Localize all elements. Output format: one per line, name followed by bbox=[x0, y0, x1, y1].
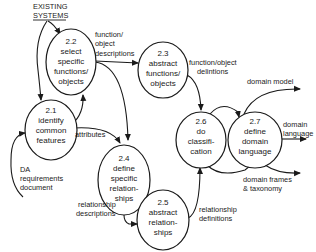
svg-text:relationship: relationship bbox=[78, 200, 116, 209]
svg-text:select: select bbox=[61, 47, 83, 56]
svg-text:ships: ships bbox=[115, 194, 134, 203]
process-2.6: 2.6 do classifi- cation bbox=[176, 112, 226, 168]
process-2.3: 2.3 abstract functions/ objects bbox=[138, 42, 188, 98]
svg-text:do: do bbox=[197, 127, 206, 136]
process-2.1: 2.1 identify common features bbox=[25, 100, 77, 160]
process-2.2: 2.2 select specific functions/ objects bbox=[46, 29, 96, 95]
svg-text:language: language bbox=[283, 129, 313, 138]
svg-text:objects: objects bbox=[150, 79, 175, 88]
label-function-object-definitions: function/object delintions bbox=[189, 58, 237, 76]
svg-text:& taxonomy: & taxonomy bbox=[243, 184, 282, 193]
flow-2.6-to-2.7 bbox=[210, 106, 239, 117]
flow-2.3-to-2.6 bbox=[187, 75, 201, 110]
svg-text:descriptions: descriptions bbox=[95, 49, 135, 58]
svg-text:definitions: definitions bbox=[199, 214, 233, 223]
svg-text:2.6: 2.6 bbox=[195, 117, 207, 126]
svg-text:features: features bbox=[37, 136, 66, 145]
svg-text:domain frames: domain frames bbox=[243, 175, 292, 184]
svg-text:functions/: functions/ bbox=[146, 69, 181, 78]
svg-text:relation-: relation- bbox=[110, 184, 139, 193]
flow-2.7-domain-frames bbox=[265, 165, 300, 173]
process-2.7: 2.7 define domain language bbox=[228, 112, 282, 168]
process-2.5: 2.5 abstract relation- ships bbox=[137, 190, 189, 250]
svg-text:2.5: 2.5 bbox=[157, 198, 169, 207]
svg-text:document: document bbox=[20, 183, 52, 192]
svg-text:abstract: abstract bbox=[149, 208, 178, 217]
svg-text:function/object: function/object bbox=[189, 58, 237, 67]
svg-text:language: language bbox=[239, 147, 272, 156]
svg-text:descriptions: descriptions bbox=[76, 209, 116, 218]
external-source-existing-systems: EXISTING SYSTEMS bbox=[33, 2, 68, 20]
svg-text:2.2: 2.2 bbox=[65, 37, 77, 46]
label-da-requirements: DA requirements document bbox=[20, 165, 63, 192]
svg-text:2.3: 2.3 bbox=[157, 49, 169, 58]
label-domain-model: domain model bbox=[247, 77, 294, 86]
svg-text:2.1: 2.1 bbox=[45, 106, 57, 115]
svg-text:SYSTEMS: SYSTEMS bbox=[33, 11, 68, 20]
flow-2.2-to-2.4 bbox=[95, 62, 128, 140]
label-relationship-definitions: relationship definitions bbox=[199, 205, 237, 223]
svg-text:specific: specific bbox=[58, 57, 85, 66]
svg-text:relationship: relationship bbox=[199, 205, 237, 214]
svg-text:functions/: functions/ bbox=[54, 67, 89, 76]
svg-text:DA: DA bbox=[20, 165, 30, 174]
svg-text:domain: domain bbox=[242, 137, 268, 146]
svg-text:classifi-: classifi- bbox=[188, 137, 215, 146]
flow-existing-to-2.2 bbox=[48, 21, 60, 34]
svg-text:EXISTING: EXISTING bbox=[33, 2, 68, 11]
svg-text:domain: domain bbox=[283, 120, 307, 129]
label-domain-language: domain language bbox=[283, 120, 313, 138]
svg-text:abstract: abstract bbox=[149, 59, 178, 68]
svg-text:common: common bbox=[36, 126, 67, 135]
svg-text:define: define bbox=[244, 127, 266, 136]
svg-text:relation-: relation- bbox=[149, 218, 178, 227]
svg-text:2.4: 2.4 bbox=[118, 154, 130, 163]
svg-text:delintions: delintions bbox=[197, 67, 229, 76]
flow-2.7-domain-model bbox=[244, 89, 300, 114]
svg-text:requirements: requirements bbox=[20, 174, 63, 183]
label-function-object-descriptions: function/ object descriptions bbox=[95, 30, 135, 58]
svg-text:define: define bbox=[113, 164, 135, 173]
svg-text:domain model: domain model bbox=[247, 77, 294, 86]
svg-text:2.7: 2.7 bbox=[249, 117, 261, 126]
data-flow-diagram: EXISTING SYSTEMS 2.2 select specific fun… bbox=[0, 0, 316, 252]
flow-2.4-to-2.5 bbox=[124, 215, 137, 224]
svg-text:attributes: attributes bbox=[75, 130, 106, 139]
label-relationship-descriptions: relationship descriptions bbox=[76, 200, 116, 218]
label-attributes: attributes bbox=[75, 130, 106, 139]
flow-2.2-to-2.3 bbox=[95, 61, 138, 63]
svg-text:specific: specific bbox=[111, 174, 138, 183]
svg-text:objects: objects bbox=[58, 77, 83, 86]
svg-text:identify: identify bbox=[38, 116, 63, 125]
svg-text:ships: ships bbox=[154, 228, 173, 237]
svg-text:function/: function/ bbox=[95, 30, 124, 39]
label-domain-frames-taxonomy: domain frames & taxonomy bbox=[243, 175, 292, 193]
svg-text:cation: cation bbox=[190, 147, 211, 156]
svg-text:object: object bbox=[95, 39, 115, 48]
